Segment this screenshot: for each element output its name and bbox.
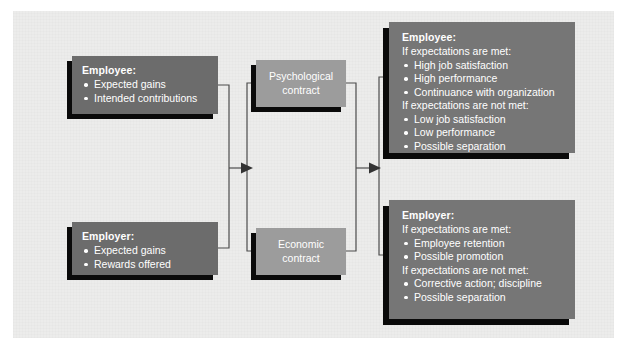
box-face: Economic contract [256,228,346,275]
list-item: High performance [402,72,567,85]
node-label-line2: contract [282,84,319,97]
condition-met-label: If expectations are met: [402,223,567,236]
list-item: Rewards offered [82,258,209,271]
bullet-list: Expected gains Intended contributions [82,78,209,105]
node-label-line2: contract [282,252,319,265]
list-item: Possible separation [402,140,567,153]
box-face: Employee: Expected gains Intended contri… [72,56,218,114]
node-employer-outcomes: Employer: If expectations are met: Emplo… [389,200,575,319]
node-economic-contract: Economic contract [256,228,346,275]
condition-not-met-label: If expectations are not met: [402,99,567,112]
box-face: Employee: If expectations are met: High … [389,22,575,153]
list-item: Corrective action; discipline [402,277,567,290]
node-label-line1: Psychological [269,70,333,83]
list-item: Employee retention [402,237,567,250]
node-label-line1: Economic [278,238,324,251]
box-face: Psychological contract [256,60,346,107]
list-item: Expected gains [82,78,209,91]
diagram-figure: Employee: Expected gains Intended contri… [0,0,629,348]
node-title: Employer: [82,230,209,243]
node-title: Employee: [402,31,567,44]
list-item: Possible promotion [402,250,567,263]
node-employee-outcomes: Employee: If expectations are met: High … [389,22,575,153]
list-item: Low job satisfaction [402,113,567,126]
node-psychological-contract: Psychological contract [256,60,346,107]
list-item: Low performance [402,126,567,139]
bullet-list-met: Employee retention Possible promotion [402,237,567,264]
list-item: Possible separation [402,291,567,304]
list-item: Intended contributions [82,92,209,105]
bullet-list-not-met: Low job satisfaction Low performance Pos… [402,113,567,153]
list-item: Continuance with organization [402,86,567,99]
bullet-list-not-met: Corrective action; discipline Possible s… [402,277,567,304]
box-face: Employer: If expectations are met: Emplo… [389,200,575,319]
node-title: Employee: [82,64,209,77]
list-item: Expected gains [82,244,209,257]
node-employer-inputs: Employer: Expected gains Rewards offered [72,222,218,275]
list-item: High job satisfaction [402,59,567,72]
diagram-canvas: Employee: Expected gains Intended contri… [13,11,614,338]
bullet-list: Expected gains Rewards offered [82,244,209,271]
bullet-list-met: High job satisfaction High performance C… [402,59,567,99]
condition-not-met-label: If expectations are not met: [402,264,567,277]
node-employee-inputs: Employee: Expected gains Intended contri… [72,56,218,114]
node-title: Employer: [402,209,567,222]
box-face: Employer: Expected gains Rewards offered [72,222,218,275]
condition-met-label: If expectations are met: [402,45,567,58]
